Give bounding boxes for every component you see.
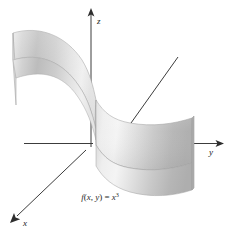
surface-upper-lobe [13, 30, 96, 129]
surface-plot-svg: z y x [0, 0, 234, 238]
figure-container: z y x [0, 0, 234, 238]
surface-lower-right-edge [192, 116, 194, 190]
x-axis-label: x [22, 218, 27, 228]
y-axis-label: y [208, 147, 213, 157]
caption-rhs-exponent: 3 [116, 191, 119, 198]
surface-lower-lobe [96, 100, 192, 170]
caption-equals: = [102, 192, 112, 202]
z-axis-label: z [96, 16, 101, 26]
figure-caption: f(x, y) = x3 [81, 191, 119, 202]
cubic-ribbon-surface [13, 30, 194, 195]
